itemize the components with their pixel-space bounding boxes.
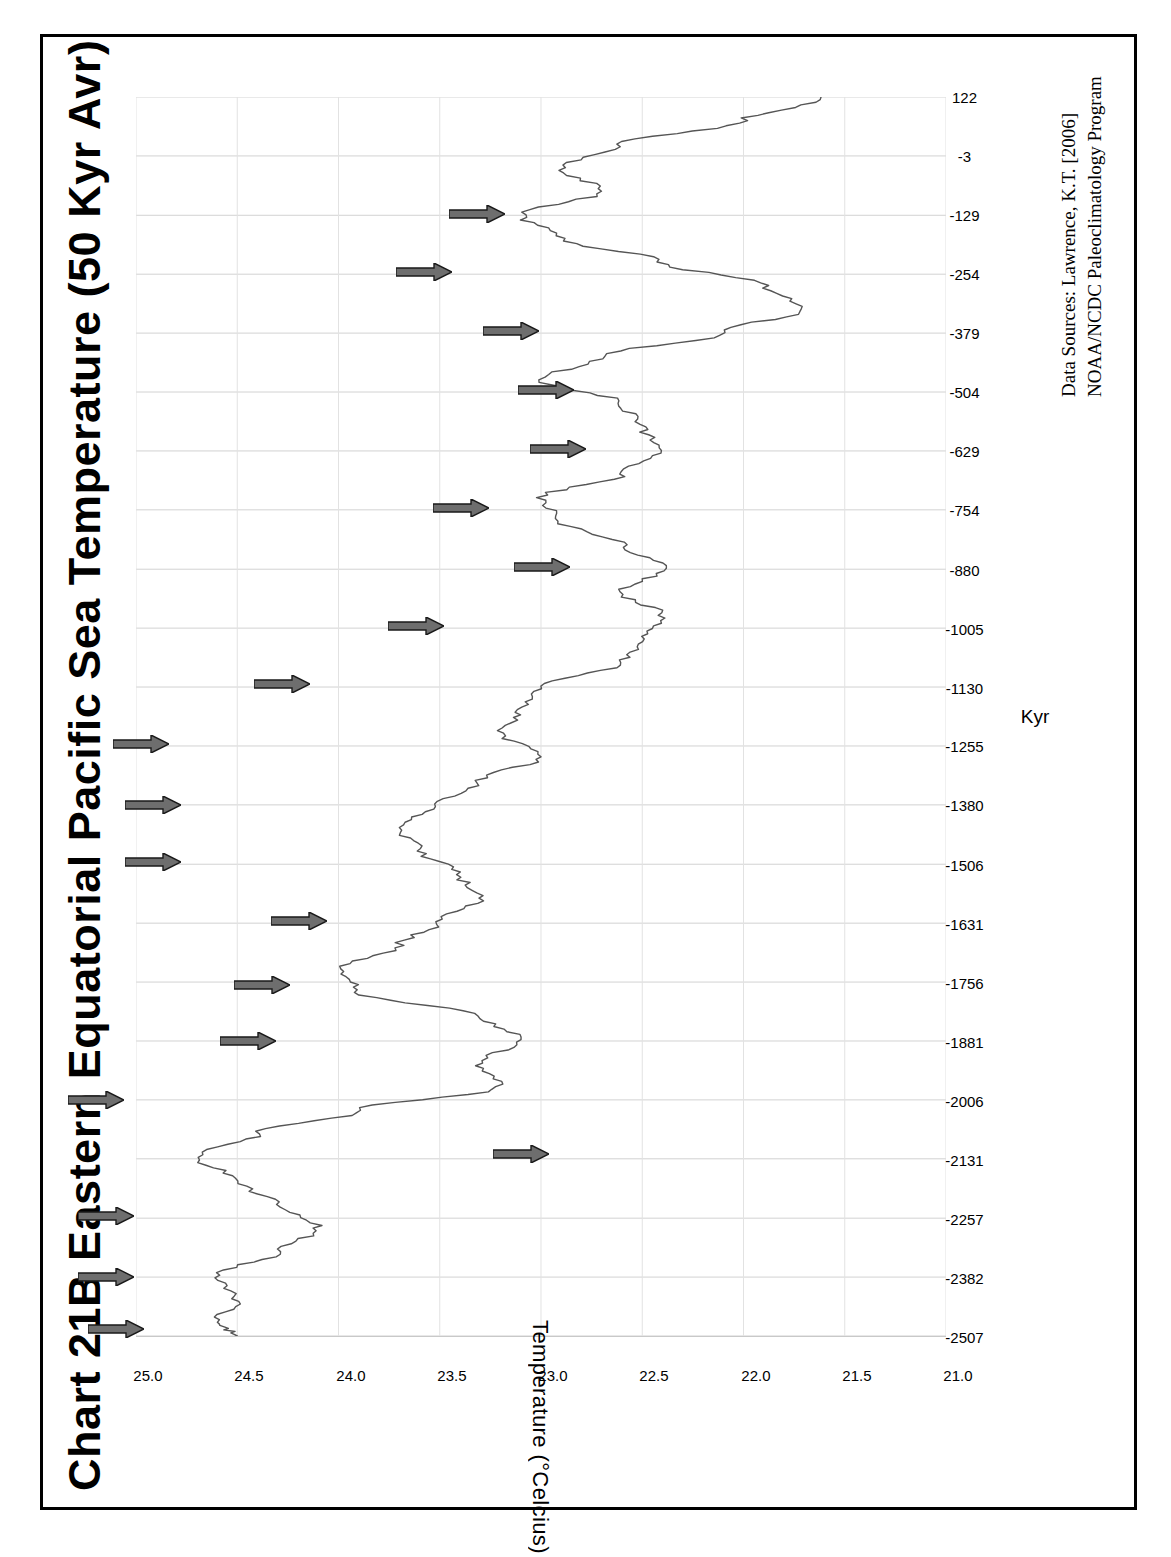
y-axis-tick-label: 21.5 — [815, 1367, 871, 1384]
y-axis-tick-label: 25.0 — [107, 1367, 163, 1384]
x-axis-tick-label: -1756 — [935, 974, 995, 991]
x-axis-tick-label: -2257 — [935, 1211, 995, 1228]
source-line-2: NOAA/NCDC Paleoclimatology Program — [1082, 37, 1108, 397]
x-axis-tick-label: -2006 — [935, 1092, 995, 1109]
x-axis-tick-label: -754 — [935, 502, 995, 519]
chart-page-frame: Chart 21B Eastern Equatorial Pacific Sea… — [40, 34, 1137, 1510]
warm-peak-arrow-icon — [68, 1091, 124, 1109]
y-axis-tick-label: 21.0 — [917, 1367, 973, 1384]
warm-peak-arrow-icon — [530, 440, 586, 458]
x-axis-tick-label: -1881 — [935, 1033, 995, 1050]
warm-peak-arrow-icon — [493, 1145, 549, 1163]
x-axis-tick-label: -3 — [935, 147, 995, 164]
x-axis-tick-label: -2131 — [935, 1151, 995, 1168]
warm-peak-arrow-icon — [433, 499, 489, 517]
x-axis-tick-label: -629 — [935, 443, 995, 460]
warm-peak-arrow-icon — [449, 205, 505, 223]
warm-peak-arrow-icon — [125, 796, 181, 814]
x-axis-tick-label: -1631 — [935, 915, 995, 932]
warm-peak-arrow-icon — [234, 976, 290, 994]
x-axis-tick-label: 122 — [935, 89, 995, 106]
x-axis-tick-label: -2507 — [935, 1329, 995, 1346]
y-axis-tick-label: 22.5 — [613, 1367, 669, 1384]
warm-peak-arrow-icon — [271, 912, 327, 930]
x-axis-tick-label: -2382 — [935, 1270, 995, 1287]
x-axis-tick-label: -1506 — [935, 856, 995, 873]
rotated-chart-stage: Chart 21B Eastern Equatorial Pacific Sea… — [43, 37, 1134, 1507]
warm-peak-arrow-icon — [88, 1320, 144, 1338]
warm-peak-arrow-icon — [396, 263, 452, 281]
y-axis-title: Temperature (°Celcius) — [527, 1287, 553, 1557]
x-axis-tick-label: -1005 — [935, 620, 995, 637]
x-axis-tick-label: -379 — [935, 325, 995, 342]
warm-peak-arrow-icon — [254, 675, 310, 693]
warm-peak-arrow-icon — [125, 853, 181, 871]
warm-peak-arrow-icon — [220, 1032, 276, 1050]
x-axis-tick-label: -504 — [935, 384, 995, 401]
warm-peak-arrow-icon — [518, 381, 574, 399]
x-axis-tick-label: -880 — [935, 561, 995, 578]
x-axis-tick-label: -254 — [935, 266, 995, 283]
source-line-1: Data Sources: Lawrence, K.T. [2006] — [1056, 37, 1082, 397]
warm-peak-arrow-icon — [388, 617, 444, 635]
warm-peak-arrow-icon — [78, 1268, 134, 1286]
x-axis-tick-label: -129 — [935, 207, 995, 224]
x-axis-tick-label: -1255 — [935, 738, 995, 755]
data-source-note: Data Sources: Lawrence, K.T. [2006] NOAA… — [1056, 37, 1107, 397]
warm-peak-arrow-icon — [113, 735, 169, 753]
x-axis-title: Kyr — [1005, 706, 1065, 728]
y-axis-tick-label: 22.0 — [714, 1367, 770, 1384]
x-axis-tick-label: -1380 — [935, 797, 995, 814]
y-axis-tick-label: 23.5 — [410, 1367, 466, 1384]
y-axis-tick-label: 24.5 — [208, 1367, 264, 1384]
x-axis-tick-label: -1130 — [935, 679, 995, 696]
warm-peak-arrow-icon — [78, 1207, 134, 1225]
warm-peak-arrow-icon — [514, 558, 570, 576]
warm-peak-arrow-icon — [483, 322, 539, 340]
y-axis-tick-label: 24.0 — [309, 1367, 365, 1384]
